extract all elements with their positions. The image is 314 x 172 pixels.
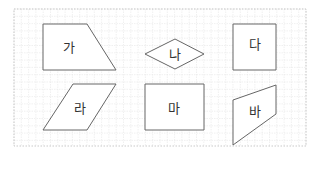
shape-da: 다 (233, 24, 276, 70)
shape-group: 가나다라마바 (43, 24, 276, 145)
shape-label: 가 (63, 40, 75, 55)
shape-label: 다 (249, 37, 261, 52)
shape-label: 바 (249, 104, 261, 119)
shape-ra: 라 (43, 84, 116, 130)
shape-na: 나 (145, 39, 204, 69)
shape-ma: 마 (145, 84, 204, 130)
shape-label: 마 (168, 101, 180, 116)
shape-label: 나 (169, 47, 181, 62)
shape-ba: 바 (233, 85, 276, 145)
shapes-diagram: 가나다라마바 (0, 0, 314, 172)
shape-label: 라 (74, 101, 86, 116)
